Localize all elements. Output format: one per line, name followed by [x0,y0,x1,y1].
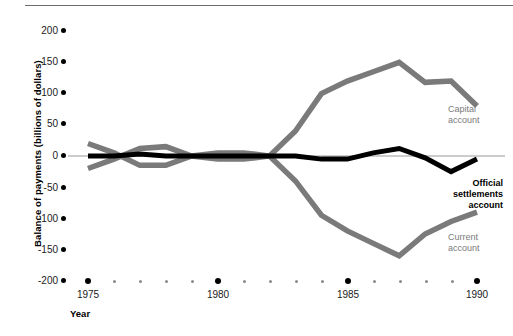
plot-area [0,0,513,336]
series-label-capital-line1: Capital [448,104,480,115]
series-label-current-line1: Current [448,232,480,243]
series-label-official-line2: settlements [408,189,503,200]
series-label-current-account: Current account [448,232,480,254]
series-label-official-settlements-account: Official settlements account [408,178,503,211]
balance-of-payments-chart: Balance of payments (billions of dollars… [0,0,513,336]
series-label-official-line1: Official [408,178,503,189]
series-label-capital-account: Capital account [448,104,480,126]
series-label-current-line2: account [448,243,480,254]
series-label-capital-line2: account [448,115,480,126]
series-label-official-line3: account [408,200,503,211]
